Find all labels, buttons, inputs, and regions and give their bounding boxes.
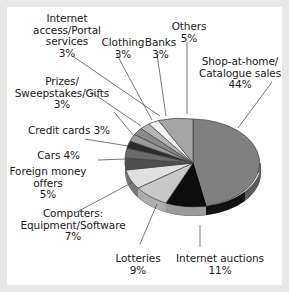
leader-line-cars (85, 139, 128, 146)
slice-label-lotteries: Lotteries 9% (108, 253, 168, 276)
pie-slices (125, 118, 260, 207)
leader-line-lotteries (140, 204, 157, 244)
slice-label-computers: Computers: Equipment/Software 7% (4, 208, 142, 243)
slice-label-prizes: Prizes/ Sweepstakes/Gifts 3% (6, 76, 118, 111)
slice-label-cars: Cars 4% (6, 150, 80, 162)
leader-line-banks (157, 54, 166, 116)
leader-line-credit-cards (114, 112, 134, 136)
slice-label-others: Others 5% (166, 21, 212, 44)
slice-label-internet-auctions: Internet auctions 11% (168, 253, 272, 276)
leader-line-clothing (116, 53, 152, 120)
leader-line-foreign-money (98, 159, 126, 160)
slice-label-credit-cards: Credit cards 3% (6, 125, 110, 137)
slice-label-shop-at-home: Shop-at-home/ Catalogue sales 44% (196, 56, 284, 91)
slice-label-foreign-money: Foreign money offers 5% (4, 166, 92, 201)
